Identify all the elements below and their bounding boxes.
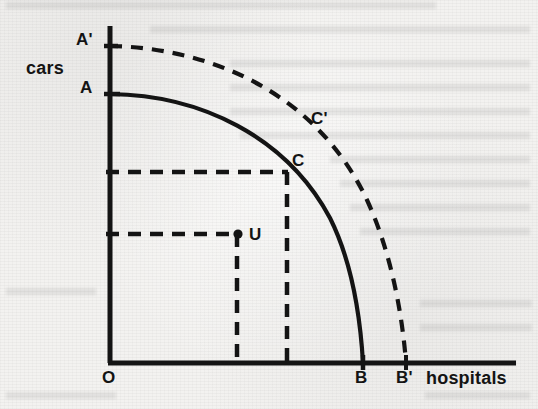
y-axis-label: cars: [26, 59, 64, 77]
ppf-plot: [0, 0, 538, 409]
origin-label: O: [102, 369, 115, 386]
label-c: C: [292, 152, 304, 169]
label-c-prime: C': [311, 110, 328, 127]
label-b: B: [355, 369, 367, 386]
x-axis-label: hospitals: [426, 369, 507, 387]
label-b-prime: B': [396, 369, 413, 386]
label-a: A: [80, 79, 92, 96]
ppf-curve-shifted: [110, 46, 406, 363]
label-a-prime: A': [76, 31, 93, 48]
label-u: U: [249, 226, 261, 243]
point-u-marker: [233, 229, 242, 238]
ppf-figure: A' cars A C' C U O B B' hospitals: [0, 0, 538, 409]
